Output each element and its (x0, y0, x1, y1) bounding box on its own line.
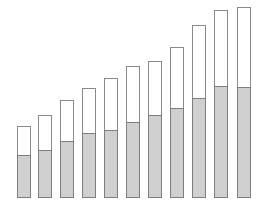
bar-9 (192, 25, 206, 198)
bar-segment-upper (192, 25, 206, 99)
bar-8 (170, 47, 184, 198)
bar-11 (237, 7, 251, 198)
bar-segment-lower (192, 98, 206, 198)
bar-2 (38, 115, 52, 198)
bar-segment-upper (60, 100, 74, 142)
stacked-bar-chart (0, 0, 263, 215)
bar-7 (148, 61, 162, 198)
bar-segment-upper (148, 61, 162, 116)
bar-segment-lower (214, 86, 228, 198)
bar-segment-lower (126, 122, 140, 198)
bar-segment-lower (104, 130, 118, 198)
bar-10 (214, 10, 228, 198)
bar-segment-upper (82, 88, 96, 134)
bar-segment-lower (170, 108, 184, 198)
bar-segment-lower (148, 115, 162, 198)
bar-segment-upper (17, 126, 31, 156)
bar-segment-lower (60, 141, 74, 198)
bar-4 (82, 88, 96, 198)
bar-segment-upper (104, 78, 118, 131)
bar-segment-lower (38, 150, 52, 198)
bar-6 (126, 66, 140, 198)
bar-segment-upper (126, 66, 140, 123)
bar-segment-upper (170, 47, 184, 109)
bar-segment-lower (17, 155, 31, 198)
bar-segment-upper (214, 10, 228, 87)
bar-segment-upper (38, 115, 52, 151)
bar-3 (60, 100, 74, 198)
bar-segment-lower (237, 87, 251, 198)
bar-1 (17, 126, 31, 198)
bar-segment-lower (82, 133, 96, 198)
bar-segment-upper (237, 7, 251, 88)
bar-5 (104, 78, 118, 198)
